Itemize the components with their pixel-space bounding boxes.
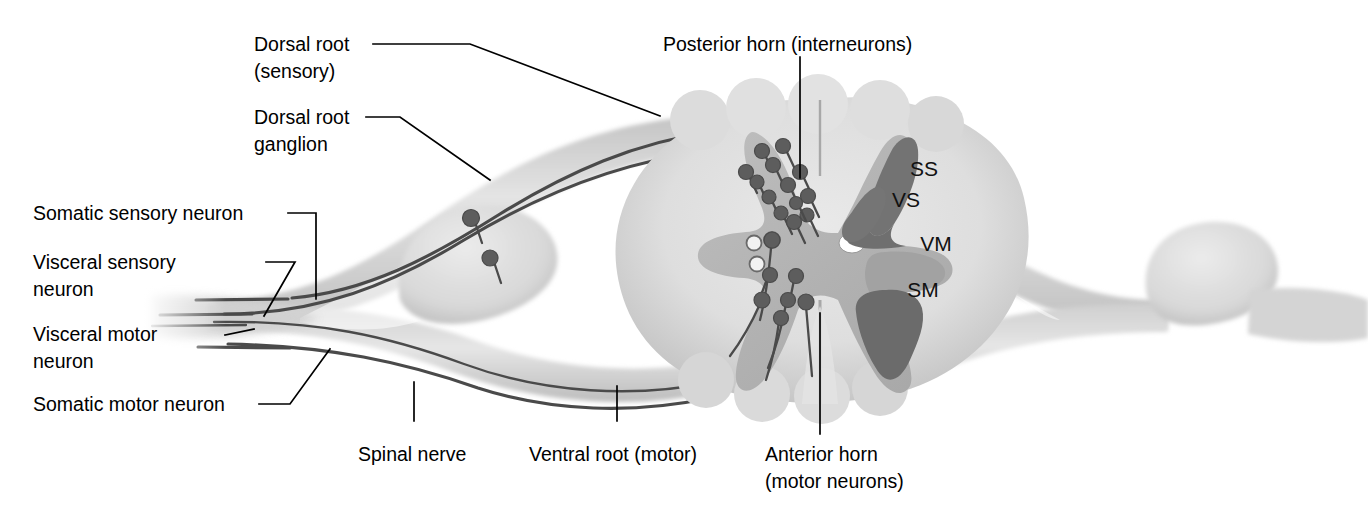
posterior-lobule-2 (726, 78, 786, 138)
label-visceral-motor-neuron-sub: neuron (33, 350, 94, 372)
posterior-lobule-4 (850, 80, 910, 140)
right-spinal-nerve-trunk (1248, 288, 1368, 342)
anterior-lobule-1 (678, 352, 734, 408)
label-somatic-sensory-neuron: Somatic sensory neuron (33, 202, 243, 224)
zone-label-vm: VM (920, 232, 952, 255)
label-anterior-horn-sub: (motor neurons) (765, 470, 904, 492)
zone-label-vs: VS (892, 188, 920, 211)
visceral-motor-neuron-open (747, 236, 762, 251)
zone-label-ss: SS (910, 157, 938, 180)
zone-label-sm: SM (907, 278, 939, 301)
label-spinal-nerve: Spinal nerve (358, 443, 466, 465)
label-dorsal-root-sub: (sensory) (254, 60, 335, 82)
posterior-lobule-1 (670, 90, 730, 150)
label-visceral-sensory-neuron: Visceral sensory (33, 251, 176, 273)
label-dorsal-root-ganglion-sub: ganglion (254, 133, 328, 155)
label-somatic-motor-neuron: Somatic motor neuron (33, 393, 225, 415)
label-visceral-sensory-neuron-sub: neuron (33, 278, 94, 300)
posterior-lobule-3 (788, 74, 848, 134)
label-anterior-horn: Anterior horn (765, 443, 878, 465)
visceral-motor-neuron-open (750, 257, 765, 272)
spinal-cord-diagram: SS VS VM SM (0, 0, 1368, 510)
label-posterior-horn: Posterior horn (interneurons) (663, 33, 912, 55)
label-dorsal-root: Dorsal root (254, 33, 350, 55)
label-visceral-motor-neuron: Visceral motor (33, 323, 158, 345)
label-dorsal-root-ganglion: Dorsal root (254, 106, 350, 128)
label-ventral-root: Ventral root (motor) (529, 443, 697, 465)
